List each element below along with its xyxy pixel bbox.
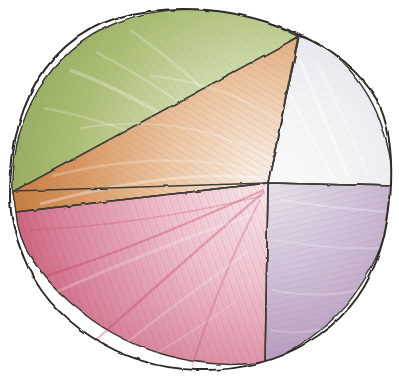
hand-drawn-pie-chart (0, 0, 399, 382)
pie-chart-canvas: Green Orange Red Purple Gray (0, 0, 399, 382)
